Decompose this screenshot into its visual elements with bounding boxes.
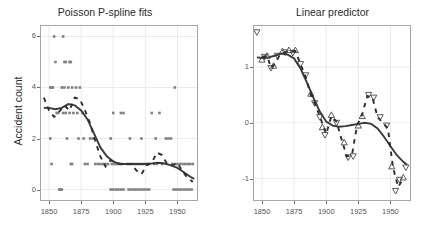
- left-plot-panel: [40, 25, 198, 201]
- axis-tick-mark: [49, 201, 50, 204]
- axis-tick-mark: [250, 179, 253, 180]
- axis-tick-mark: [390, 201, 391, 204]
- left-y-ticks-label: 4: [16, 82, 36, 91]
- axis-tick-mark: [177, 201, 178, 204]
- right-plot-panel: [253, 25, 411, 201]
- left-x-ticks-label: 1925: [130, 207, 160, 216]
- axis-tick-mark: [113, 201, 114, 204]
- right-x-ticks-label: 1850: [247, 207, 277, 216]
- axis-tick-mark: [250, 123, 253, 124]
- right-plot-svg: [253, 25, 411, 201]
- left-y-ticks-label: 0: [16, 185, 36, 194]
- right-x-ticks-label: 1925: [343, 207, 373, 216]
- left-x-ticks-label: 1875: [66, 207, 96, 216]
- axis-tick-mark: [294, 201, 295, 204]
- axis-tick-mark: [145, 201, 146, 204]
- right-y-ticks-label: 0: [229, 118, 249, 127]
- left-x-ticks-label: 1850: [34, 207, 64, 216]
- axis-tick-mark: [37, 87, 40, 88]
- right-x-ticks-label: 1950: [375, 207, 405, 216]
- left-y-ticks-label: 6: [16, 31, 36, 40]
- left-x-ticks-label: 1950: [162, 207, 192, 216]
- axis-tick-mark: [358, 201, 359, 204]
- axis-tick-mark: [262, 201, 263, 204]
- left-x-ticks-label: 1900: [98, 207, 128, 216]
- axis-tick-mark: [37, 139, 40, 140]
- left-plot-svg: [40, 25, 198, 201]
- left-y-axis-title: Accident count: [12, 51, 24, 171]
- axis-tick-mark: [326, 201, 327, 204]
- axis-tick-mark: [37, 36, 40, 37]
- left-y-ticks-label: 2: [16, 134, 36, 143]
- axis-tick-mark: [37, 190, 40, 191]
- right-panel-title: Linear predictor: [255, 6, 410, 18]
- right-y-ticks-label: 1: [229, 62, 249, 71]
- right-x-ticks-label: 1900: [311, 207, 341, 216]
- axis-tick-mark: [81, 201, 82, 204]
- right-y-ticks-label: -1: [229, 174, 249, 183]
- figure-container: Poisson P-spline fits Accident count 024…: [0, 0, 423, 233]
- left-panel-title: Poisson P-spline fits: [10, 6, 200, 18]
- axis-tick-mark: [250, 67, 253, 68]
- right-x-ticks-label: 1875: [279, 207, 309, 216]
